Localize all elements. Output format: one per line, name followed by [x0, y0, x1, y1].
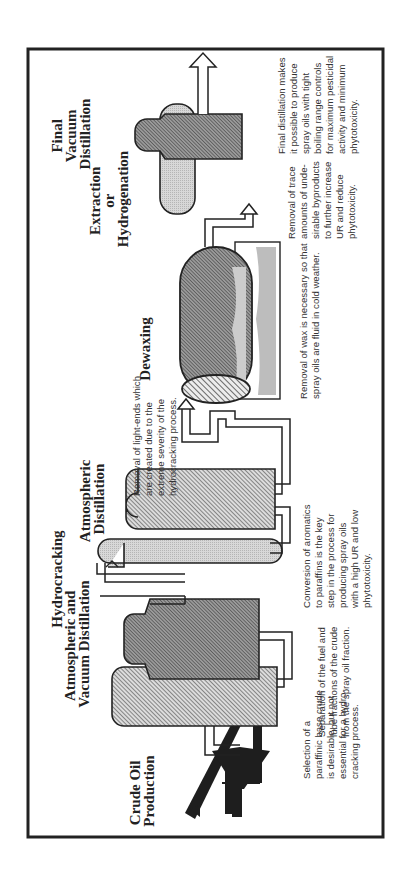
stage-title: Atmospheric and Vacuum Distillation — [62, 580, 92, 708]
reactor-vessel-icon — [98, 539, 282, 567]
stage-title: Dewaxing — [137, 317, 153, 381]
stage-note: Final distillation makes it possible to … — [276, 53, 359, 154]
dewaxing-drum-icon — [180, 242, 280, 403]
stage-note: Separation of the fuel and lube fraction… — [316, 624, 351, 737]
stage-title: Crude Oil Production — [127, 755, 157, 827]
stage-title: Atmospheric Distillation — [77, 456, 107, 542]
stage-title: Hydrocracking — [49, 530, 65, 628]
process-diagram: Crude Oil Production Selection of a para… — [0, 0, 399, 879]
stage-note: Removal of wax is necessary so that spra… — [298, 241, 321, 399]
